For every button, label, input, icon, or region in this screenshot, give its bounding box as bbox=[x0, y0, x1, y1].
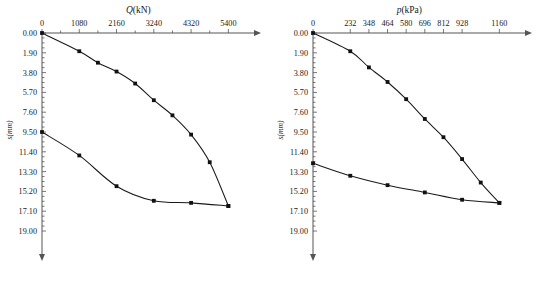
chart-panel-right: 023234846458069681292811600.001.903.805.… bbox=[271, 0, 541, 281]
x-tick-label: 1160 bbox=[491, 19, 507, 28]
data-point-marker bbox=[460, 157, 464, 161]
data-point-marker bbox=[311, 31, 315, 35]
y-tick-label: 9.50 bbox=[23, 128, 37, 137]
y-axis-arrow-icon bbox=[39, 254, 45, 261]
y-axis-title-unit: (mm) bbox=[276, 120, 285, 136]
x-tick-label: 348 bbox=[363, 19, 375, 28]
y-tick-label: 15.20 bbox=[290, 187, 308, 196]
y-tick-label: 7.60 bbox=[294, 108, 308, 117]
data-point-marker bbox=[77, 49, 81, 53]
chart-left-svg: 0108021603240432054000.001.903.805.707.6… bbox=[0, 0, 270, 281]
figure-root: 0108021603240432054000.001.903.805.707.6… bbox=[0, 0, 541, 281]
y-tick-label: 5.70 bbox=[23, 88, 37, 97]
y-tick-label: 13.30 bbox=[19, 168, 37, 177]
x-axis-arrow-icon bbox=[525, 30, 532, 36]
series-line-loading bbox=[313, 33, 499, 203]
data-point-marker bbox=[386, 183, 390, 187]
chart-right-svg: 023234846458069681292811600.001.903.805.… bbox=[271, 0, 541, 281]
x-tick-label: 232 bbox=[344, 19, 356, 28]
chart-panel-left: 0108021603240432054000.001.903.805.707.6… bbox=[0, 0, 270, 281]
data-point-marker bbox=[152, 98, 156, 102]
y-tick-label: 7.60 bbox=[23, 108, 37, 117]
y-tick-label: 9.50 bbox=[294, 128, 308, 137]
y-tick-label: 5.70 bbox=[294, 88, 308, 97]
data-point-marker bbox=[348, 49, 352, 53]
y-tick-label: 1.90 bbox=[23, 49, 37, 58]
y-tick-label: 17.10 bbox=[19, 207, 37, 216]
y-axis-title: s(mm) bbox=[5, 120, 14, 139]
data-point-marker bbox=[226, 204, 230, 208]
y-tick-label: 15.20 bbox=[19, 187, 37, 196]
chart-left-content: 0108021603240432054000.001.903.805.707.6… bbox=[5, 5, 261, 261]
x-tick-label: 580 bbox=[400, 19, 412, 28]
data-point-marker bbox=[348, 174, 352, 178]
y-tick-label: 11.40 bbox=[290, 148, 308, 157]
x-axis-title: p(kPa) bbox=[396, 5, 422, 16]
data-point-marker bbox=[115, 184, 119, 188]
series-line-unloading bbox=[42, 132, 228, 206]
x-tick-label: 464 bbox=[381, 19, 393, 28]
data-point-marker bbox=[404, 97, 408, 101]
x-tick-label: 928 bbox=[456, 19, 468, 28]
y-axis-title-unit: (mm) bbox=[5, 120, 14, 136]
x-axis-title-unit: (kN) bbox=[133, 5, 151, 16]
data-point-marker bbox=[208, 160, 212, 164]
x-tick-label: 4320 bbox=[183, 19, 199, 28]
x-axis-title-unit: (kPa) bbox=[401, 5, 422, 16]
y-tick-label: 3.80 bbox=[23, 69, 37, 78]
data-point-marker bbox=[497, 201, 501, 205]
series-line-unloading bbox=[313, 163, 499, 203]
x-tick-label: 5400 bbox=[220, 19, 236, 28]
data-point-marker bbox=[479, 181, 483, 185]
data-point-marker bbox=[171, 113, 175, 117]
y-tick-label: 17.10 bbox=[290, 207, 308, 216]
data-point-marker bbox=[386, 80, 390, 84]
data-point-marker bbox=[311, 161, 315, 165]
y-tick-label: 1.90 bbox=[294, 49, 308, 58]
y-tick-label: 11.40 bbox=[19, 148, 37, 157]
data-point-marker bbox=[152, 199, 156, 203]
y-tick-label: 3.80 bbox=[294, 69, 308, 78]
y-axis-title: s(mm) bbox=[276, 120, 285, 139]
data-point-marker bbox=[367, 65, 371, 69]
data-point-marker bbox=[133, 82, 137, 86]
data-point-marker bbox=[115, 70, 119, 74]
data-point-marker bbox=[423, 191, 427, 195]
y-tick-label: 19.00 bbox=[19, 227, 37, 236]
series-line-loading bbox=[42, 33, 228, 206]
chart-right-content: 023234846458069681292811600.001.903.805.… bbox=[276, 5, 532, 261]
x-tick-label: 812 bbox=[437, 19, 449, 28]
x-axis-arrow-icon bbox=[254, 30, 261, 36]
y-tick-label: 13.30 bbox=[290, 168, 308, 177]
data-point-marker bbox=[189, 201, 193, 205]
y-tick-label: 0.00 bbox=[23, 29, 37, 38]
x-tick-label: 696 bbox=[419, 19, 431, 28]
data-point-marker bbox=[77, 154, 81, 158]
x-tick-label: 0 bbox=[311, 19, 315, 28]
data-point-marker bbox=[40, 130, 44, 134]
x-tick-label: 3240 bbox=[146, 19, 162, 28]
y-tick-label: 0.00 bbox=[294, 29, 308, 38]
data-point-marker bbox=[96, 61, 100, 65]
x-tick-label: 0 bbox=[40, 19, 44, 28]
y-tick-label: 19.00 bbox=[290, 227, 308, 236]
data-point-marker bbox=[40, 31, 44, 35]
y-axis-arrow-icon bbox=[310, 254, 316, 261]
data-point-marker bbox=[423, 117, 427, 121]
data-point-marker bbox=[189, 133, 193, 137]
data-point-marker bbox=[442, 135, 446, 139]
x-tick-label: 2160 bbox=[108, 19, 124, 28]
x-tick-label: 1080 bbox=[71, 19, 87, 28]
data-point-marker bbox=[460, 198, 464, 202]
x-axis-title: Q(kN) bbox=[126, 5, 151, 16]
